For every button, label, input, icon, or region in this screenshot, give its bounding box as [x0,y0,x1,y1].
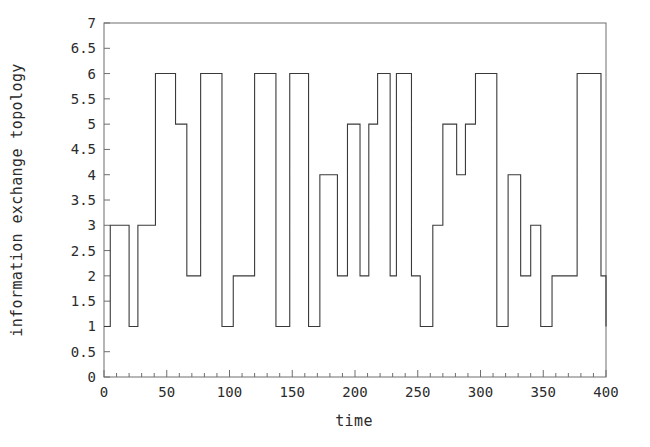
y-tick-label: 3 [88,217,96,233]
y-tick-label: 1 [88,318,96,334]
x-tick-label: 250 [405,384,430,400]
x-tick-label: 150 [280,384,305,400]
x-axis-label: time [335,412,373,430]
y-axis-label: information exchange topology [8,63,26,337]
y-tick-label: 0.5 [71,344,96,360]
y-tick-label: 6.5 [71,40,96,56]
x-tick-label: 200 [342,384,367,400]
y-tick-label: 7 [88,15,96,31]
y-tick-label: 6 [88,66,96,82]
y-tick-label: 2 [88,268,96,284]
x-tick-label: 350 [531,384,556,400]
y-tick-label: 5.5 [71,91,96,107]
y-tick-label: 2.5 [71,243,96,259]
y-tick-label: 5 [88,116,96,132]
y-tick-label: 3.5 [71,192,96,208]
y-tick-label: 0 [88,369,96,385]
step-plot: 050100150200250300350400 00.511.522.533.… [0,0,650,447]
plot-background [0,0,650,447]
x-tick-label: 300 [468,384,493,400]
y-tick-label: 4 [88,167,96,183]
y-tick-label: 1.5 [71,293,96,309]
x-tick-label: 50 [158,384,175,400]
x-tick-label: 400 [593,384,618,400]
y-tick-label: 4.5 [71,141,96,157]
chart-figure: 050100150200250300350400 00.511.522.533.… [0,0,650,447]
x-tick-label: 100 [217,384,242,400]
x-tick-label: 0 [100,384,108,400]
